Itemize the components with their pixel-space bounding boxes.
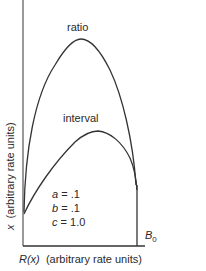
param-b-val: = .1 — [61, 202, 80, 214]
x-axis-label-units: (arbitrary rate units) — [46, 253, 142, 265]
b0-label: B0 — [145, 229, 157, 244]
y-axis-label-var: x — [4, 225, 16, 231]
y-axis-label-units: (arbitrary rate units) — [4, 122, 16, 218]
param-c: c = 1.0 — [52, 216, 85, 228]
x-axis-label-var: R(x) — [19, 253, 40, 265]
param-a-var: a — [52, 188, 58, 200]
chart-plot-area — [0, 0, 206, 271]
y-axis-label: x (arbitrary rate units) — [4, 122, 16, 230]
param-b: b = .1 — [52, 202, 80, 214]
ratio-label: ratio — [67, 21, 88, 33]
param-c-val: = 1.0 — [61, 216, 86, 228]
param-a: a = .1 — [52, 188, 80, 200]
b0-sub: 0 — [152, 235, 156, 244]
x-axis-label: R(x) (arbitrary rate units) — [19, 253, 142, 265]
param-b-var: b — [52, 202, 58, 214]
interval-curve — [24, 131, 137, 214]
param-c-var: c — [52, 216, 58, 228]
interval-label: interval — [63, 112, 98, 124]
param-a-val: = .1 — [61, 188, 80, 200]
ratio-curve — [24, 39, 136, 212]
